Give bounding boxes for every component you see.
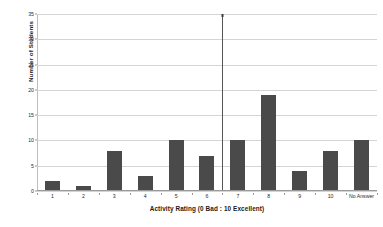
median-marker-cap [222, 14, 224, 17]
y-tick-label: 30 [28, 36, 34, 42]
median-marker-line [222, 14, 223, 191]
x-tick-mark [315, 193, 316, 195]
bar[interactable] [323, 151, 338, 191]
bar-slot [99, 14, 130, 191]
bar-slot [253, 14, 284, 191]
y-tick-label: 5 [31, 163, 34, 169]
x-tick-label: No Answer [346, 193, 377, 199]
x-tick-mark [284, 193, 285, 195]
bar[interactable] [261, 95, 276, 191]
bar[interactable] [199, 156, 214, 191]
bar-slot [192, 14, 223, 191]
bar-slot [284, 14, 315, 191]
gridline [37, 191, 377, 192]
x-tick-mark [37, 193, 38, 195]
bar[interactable] [230, 140, 245, 191]
bar-slot [346, 14, 377, 191]
x-tick-label: 7 [222, 193, 253, 199]
x-tick-label: 2 [68, 193, 99, 199]
x-tick-mark [99, 193, 100, 195]
x-tick-mark [222, 193, 223, 195]
x-tick-label: 3 [99, 193, 130, 199]
x-tick-mark [346, 193, 347, 195]
x-tick-label: 6 [192, 193, 223, 199]
x-tick-mark [377, 193, 378, 195]
bar[interactable] [292, 171, 307, 191]
bar-slot [68, 14, 99, 191]
x-tick-mark [253, 193, 254, 195]
x-tick-label: 10 [315, 193, 346, 199]
x-tick-label: 1 [37, 193, 68, 199]
x-axis-line [37, 190, 377, 191]
y-tick-label: 15 [28, 112, 34, 118]
bar-slot [315, 14, 346, 191]
x-tick-label: 5 [161, 193, 192, 199]
x-tick-label: 4 [130, 193, 161, 199]
bar-slot [37, 14, 68, 191]
x-tick-label: 9 [284, 193, 315, 199]
bars-group [37, 14, 377, 191]
x-tick-label: 8 [253, 193, 284, 199]
x-tick-mark [192, 193, 193, 195]
x-axis-ticks: 12345678910No Answer [37, 193, 377, 199]
y-tick-label: 25 [28, 62, 34, 68]
x-tick-mark [68, 193, 69, 195]
bar[interactable] [354, 140, 369, 191]
bar-slot [161, 14, 192, 191]
bar[interactable] [169, 140, 184, 191]
x-tick-mark [161, 193, 162, 195]
bar-slot [222, 14, 253, 191]
y-tick-label: 35 [28, 11, 34, 17]
bar[interactable] [107, 151, 122, 191]
y-tick-label: 0 [31, 188, 34, 194]
bar[interactable] [138, 176, 153, 191]
x-axis-title: Activity Rating (0 Bad : 10 Excellent) [37, 205, 377, 212]
bar-chart: Number of Students 05101520253035 123456… [0, 0, 383, 227]
plot-area: 05101520253035 [37, 14, 377, 191]
x-tick-mark [130, 193, 131, 195]
y-tick-label: 10 [28, 137, 34, 143]
y-tick-label: 20 [28, 87, 34, 93]
bar-slot [130, 14, 161, 191]
